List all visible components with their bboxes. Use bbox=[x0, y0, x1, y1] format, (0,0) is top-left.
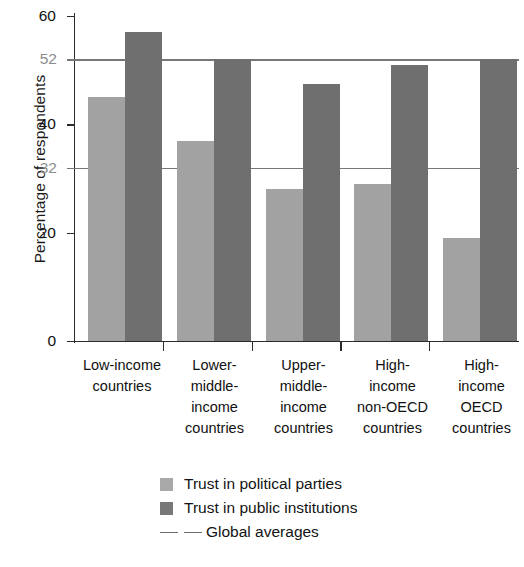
category-label-high-income-oecd: High- income OECD countries bbox=[437, 355, 524, 439]
x-axis-line bbox=[67, 341, 519, 342]
category-line: High- bbox=[437, 355, 524, 376]
y-tick-label-20: 20 bbox=[39, 224, 56, 242]
bar-group-high-income-non-oecd bbox=[354, 16, 428, 341]
y-tick-60: 60 bbox=[67, 16, 74, 17]
x-axis-separator-2 bbox=[252, 341, 253, 351]
category-line: countries bbox=[170, 418, 259, 439]
category-label-high-income-non-oecd: High- income non-OECD countries bbox=[348, 355, 437, 439]
bar-series-container bbox=[74, 16, 518, 341]
y-tick-label-40: 40 bbox=[39, 115, 56, 133]
category-line: Low-income bbox=[74, 355, 170, 376]
category-line: non-OECD bbox=[348, 397, 437, 418]
legend-label-political-parties: Trust in political parties bbox=[184, 475, 342, 493]
y-tick-label-60: 60 bbox=[39, 7, 56, 25]
legend-label-public-institutions: Trust in public institutions bbox=[184, 499, 357, 517]
bar-low-income-political-parties[interactable] bbox=[88, 97, 125, 341]
y-avg-label-52: 52 bbox=[40, 50, 57, 68]
category-line: countries bbox=[259, 418, 348, 439]
bar-group-high-income-oecd bbox=[443, 16, 517, 341]
bar-group-upper-middle-income bbox=[266, 16, 340, 341]
bar-group-lower-middle-income bbox=[177, 16, 251, 341]
bar-low-income-public-institutions[interactable] bbox=[125, 32, 162, 341]
category-label-upper-middle-income: Upper- middle- income countries bbox=[259, 355, 348, 439]
y-tick-label-0: 0 bbox=[47, 332, 56, 350]
category-label-low-income: Low-income countries bbox=[74, 355, 170, 397]
y-tick-0: 0 bbox=[67, 341, 74, 342]
x-axis-category-labels: Low-income countries Lower- middle- inco… bbox=[74, 355, 524, 455]
category-line: countries bbox=[74, 376, 170, 397]
legend-item-political-parties[interactable]: Trust in political parties bbox=[160, 472, 490, 496]
legend-swatch-dark-icon bbox=[160, 502, 173, 515]
category-line: income bbox=[437, 376, 524, 397]
legend-item-global-averages[interactable]: Global averages bbox=[182, 520, 490, 544]
category-line: income bbox=[259, 397, 348, 418]
x-axis-separator-4 bbox=[429, 341, 430, 351]
bar-chart-figure: Percentage of respondents 60 40 20 0 52 … bbox=[0, 0, 524, 567]
category-line: countries bbox=[437, 418, 524, 439]
legend-label-global-averages: Global averages bbox=[206, 523, 319, 541]
x-axis-separator-3 bbox=[340, 341, 341, 351]
bar-high-income-oecd-public-institutions[interactable] bbox=[480, 59, 517, 341]
bar-high-income-non-oecd-public-institutions[interactable] bbox=[391, 65, 428, 341]
category-line: middle- bbox=[259, 376, 348, 397]
bar-high-income-oecd-political-parties[interactable] bbox=[443, 238, 480, 341]
legend-item-public-institutions[interactable]: Trust in public institutions bbox=[160, 496, 490, 520]
plot-area: 60 40 20 0 52 32 bbox=[74, 16, 518, 341]
bar-upper-middle-income-public-institutions[interactable] bbox=[303, 84, 340, 341]
category-line: High- bbox=[348, 355, 437, 376]
y-tick-20: 20 bbox=[67, 233, 74, 234]
bar-high-income-non-oecd-political-parties[interactable] bbox=[354, 184, 391, 341]
category-line: income bbox=[170, 397, 259, 418]
x-axis-separator-1 bbox=[163, 341, 164, 351]
bar-lower-middle-income-political-parties[interactable] bbox=[177, 141, 214, 341]
bar-upper-middle-income-political-parties[interactable] bbox=[266, 189, 303, 341]
y-tick-40: 40 bbox=[67, 124, 74, 125]
bar-lower-middle-income-public-institutions[interactable] bbox=[214, 59, 251, 341]
category-line: income bbox=[348, 376, 437, 397]
category-line: OECD bbox=[437, 397, 524, 418]
category-line: Lower- bbox=[170, 355, 259, 376]
y-avg-label-32: 32 bbox=[40, 159, 57, 177]
legend-swatch-light-icon bbox=[160, 478, 173, 491]
category-line: middle- bbox=[170, 376, 259, 397]
category-line: countries bbox=[348, 418, 437, 439]
dashed-line-icon bbox=[182, 526, 195, 539]
bar-group-low-income bbox=[88, 16, 162, 341]
chart-legend: Trust in political parties Trust in publ… bbox=[160, 472, 490, 544]
cropped-caption bbox=[6, 559, 518, 567]
category-line: Upper- bbox=[259, 355, 348, 376]
category-label-lower-middle-income: Lower- middle- income countries bbox=[170, 355, 259, 439]
